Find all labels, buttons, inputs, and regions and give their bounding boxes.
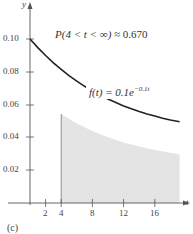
x-tick-label: 8 — [90, 208, 95, 218]
y-axis-label: y — [22, 0, 26, 9]
x-tick-label: 12 — [119, 208, 128, 218]
y-tick-label: 0.06 — [3, 99, 19, 109]
y-tick-label: 0.04 — [3, 131, 19, 141]
y-tick-label: 0.08 — [3, 66, 19, 76]
x-axis-label: t — [186, 197, 189, 207]
x-tick-label: 16 — [150, 208, 159, 218]
panel-label: (c) — [7, 222, 18, 233]
x-tick-label: 2 — [43, 208, 48, 218]
probability-annotation: P(4 < t < ∞) ≈ 0.670 — [55, 28, 148, 40]
y-tick-label: 0.02 — [3, 164, 19, 174]
x-tick-label: 4 — [59, 208, 64, 218]
y-tick-label: 0.10 — [3, 33, 19, 43]
function-annotation: f(t) = 0.1e−0.1t — [86, 84, 152, 99]
